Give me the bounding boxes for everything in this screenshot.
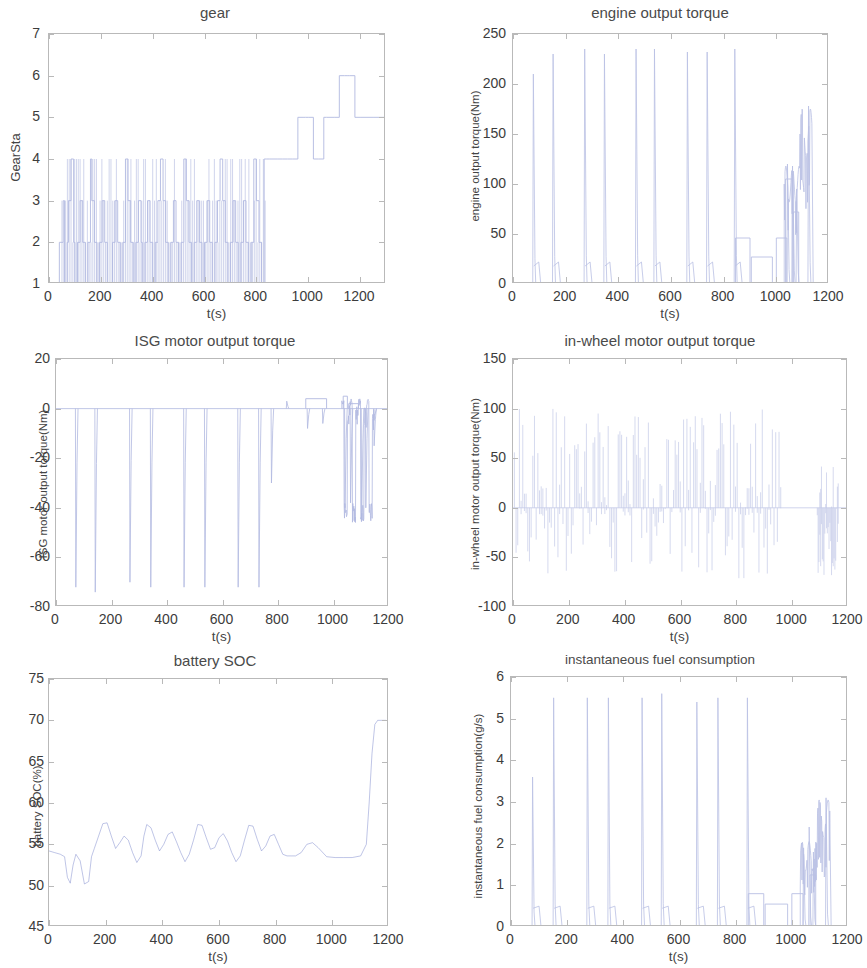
tick-mark — [379, 34, 384, 35]
tick-mark — [513, 234, 518, 235]
tick-mark — [49, 720, 54, 721]
ytick: 50 — [10, 877, 44, 893]
ytick: 7 — [18, 25, 40, 41]
tick-mark — [822, 134, 827, 135]
tick-mark — [736, 920, 737, 925]
tick-mark — [680, 920, 681, 925]
ytick: 6 — [18, 67, 40, 83]
tick-mark — [513, 458, 518, 459]
tick-mark — [56, 359, 61, 360]
tick-mark — [680, 677, 681, 682]
ytick: 5 — [482, 710, 504, 726]
tick-mark — [379, 201, 384, 202]
tick-mark — [49, 277, 50, 282]
tick-mark — [511, 760, 516, 761]
xtick: 0 — [28, 931, 68, 947]
tick-mark — [841, 508, 846, 509]
tick-mark — [566, 34, 567, 39]
xtick: 400 — [127, 288, 177, 304]
tick-mark — [841, 458, 846, 459]
tick-mark — [276, 679, 277, 684]
tick-mark — [382, 803, 387, 804]
tick-mark — [49, 159, 54, 160]
tick-mark — [671, 34, 672, 39]
ytick: 100 — [470, 175, 506, 191]
ytick: 100 — [462, 400, 506, 416]
tick-mark — [49, 34, 54, 35]
x-axis-label-gear: t(s) — [48, 306, 385, 321]
ytick: 5 — [18, 108, 40, 124]
xtick: 1200 — [362, 611, 414, 627]
ytick: 250 — [470, 25, 506, 41]
xtick: 600 — [655, 611, 705, 627]
tick-mark — [49, 762, 54, 763]
tick-mark — [792, 600, 793, 605]
tick-mark — [382, 762, 387, 763]
tick-mark — [278, 359, 279, 364]
tick-mark — [841, 409, 846, 410]
data-line-instantaneous-fuel-consumption — [511, 677, 847, 926]
tick-mark — [671, 277, 672, 282]
tick-mark — [360, 277, 361, 282]
xtick: 400 — [592, 288, 642, 304]
ytick: 55 — [10, 835, 44, 851]
x-axis-label-battery-soc: t(s) — [48, 949, 388, 964]
tick-mark — [153, 277, 154, 282]
tick-mark — [101, 34, 102, 39]
data-line-in-wheel-motor-output-torque — [513, 359, 847, 606]
tick-mark — [569, 600, 570, 605]
plot-area-gear — [48, 33, 385, 283]
xtick: 400 — [597, 931, 647, 947]
tick-mark — [566, 277, 567, 282]
tick-mark — [681, 359, 682, 364]
xtick: 1200 — [333, 288, 385, 304]
tick-mark — [511, 844, 516, 845]
tick-mark — [49, 844, 54, 845]
ytick: 20 — [10, 350, 50, 366]
tick-mark — [569, 359, 570, 364]
xtick: 1000 — [307, 611, 359, 627]
tick-mark — [511, 885, 516, 886]
tick-mark — [219, 920, 220, 925]
tick-mark — [822, 184, 827, 185]
xtick: 1000 — [749, 288, 801, 304]
xtick: 600 — [654, 931, 704, 947]
xtick: 400 — [141, 611, 191, 627]
xtick: 1000 — [765, 611, 817, 627]
tick-mark — [513, 359, 518, 360]
x-axis-label-isg-motor-output-torque: t(s) — [55, 629, 388, 644]
subplot-battery-soc: battery SOC battery SOC(%) 75 70 65 60 5… — [0, 650, 430, 968]
tick-mark — [625, 359, 626, 364]
xtick: 1000 — [765, 931, 817, 947]
tick-mark — [513, 508, 518, 509]
tick-mark — [379, 117, 384, 118]
tick-mark — [513, 184, 518, 185]
xtick: 600 — [193, 931, 243, 947]
tick-mark — [513, 134, 518, 135]
xtick: 200 — [541, 931, 591, 947]
tick-mark — [618, 34, 619, 39]
tick-mark — [841, 359, 846, 360]
chart-title-engine-output-torque: engine output torque — [490, 4, 830, 21]
xtick: 800 — [698, 288, 748, 304]
ytick: 3 — [18, 192, 40, 208]
ytick: 50 — [470, 225, 506, 241]
tick-mark — [382, 557, 387, 558]
tick-mark — [513, 600, 514, 605]
tick-mark — [724, 34, 725, 39]
xtick: 800 — [250, 931, 300, 947]
subplot-isg-motor-output-torque: ISG motor output torque ISG motor output… — [0, 330, 430, 650]
tick-mark — [49, 920, 50, 925]
tick-mark — [623, 920, 624, 925]
ytick: 0 — [10, 400, 50, 416]
xtick: 600 — [645, 288, 695, 304]
ytick: 3 — [482, 793, 504, 809]
ytick: 150 — [470, 125, 506, 141]
tick-mark — [513, 277, 514, 282]
tick-mark — [49, 76, 54, 77]
tick-mark — [223, 359, 224, 364]
plot-area-battery-soc — [48, 678, 388, 926]
tick-mark — [56, 557, 61, 558]
ytick: -40 — [10, 499, 50, 515]
